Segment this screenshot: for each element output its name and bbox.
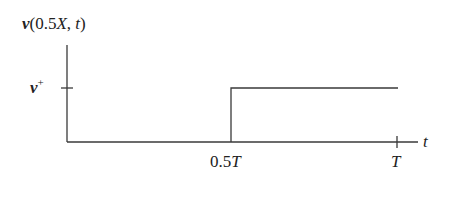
x-tick-label-T: T [391, 153, 400, 170]
y-tick-label: v+ [30, 79, 44, 96]
y-label-args-close: ) [80, 14, 86, 33]
x-axis-label: t [423, 133, 428, 150]
x-tick-num: 0.5 [210, 152, 231, 171]
y-label-arg-var: X [56, 14, 66, 33]
x-tick-var: T [391, 152, 400, 171]
x-tick-label-half-T: 0.5T [210, 153, 241, 170]
y-label-func: v [22, 14, 30, 33]
step-curve [231, 88, 398, 142]
x-tick-var: T [231, 152, 240, 171]
y-label-args-open: (0.5 [30, 14, 57, 33]
y-axis-label: v(0.5X, t) [22, 15, 86, 32]
y-tick-label-base: v [30, 78, 38, 97]
y-tick-label-sup: + [38, 76, 44, 88]
